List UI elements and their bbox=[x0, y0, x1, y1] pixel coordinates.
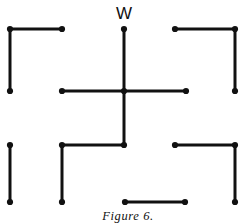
node-mid-far-left bbox=[7, 88, 13, 94]
figure-caption: Figure 6. bbox=[102, 209, 153, 224]
node-lower-right bbox=[232, 142, 238, 148]
figure-6-container: W Figure 6. bbox=[0, 0, 242, 224]
node-top-right bbox=[232, 26, 238, 32]
node-bottom-mid bbox=[59, 199, 65, 205]
node-bottom-center-right bbox=[182, 199, 188, 205]
node-top-left bbox=[7, 26, 13, 32]
node-center bbox=[121, 88, 127, 94]
node-bottom-right bbox=[232, 199, 238, 205]
node-lower-left bbox=[7, 142, 13, 148]
node-bottom-center-left bbox=[122, 199, 128, 205]
vertex-label-w: W bbox=[116, 5, 132, 22]
node-mid-left bbox=[59, 88, 65, 94]
node-lower-right-left bbox=[172, 142, 178, 148]
node-top-left-right bbox=[59, 26, 65, 32]
pinwheel-lattice-diagram bbox=[0, 0, 242, 224]
segments-group bbox=[10, 29, 235, 202]
node-mid-far-right bbox=[232, 88, 238, 94]
node-apex-w bbox=[121, 26, 127, 32]
node-mid-right bbox=[183, 88, 189, 94]
node-lower-center bbox=[121, 142, 127, 148]
node-top-right-left bbox=[172, 26, 178, 32]
node-bottom-left bbox=[7, 199, 13, 205]
node-lower-mid-left bbox=[59, 142, 65, 148]
